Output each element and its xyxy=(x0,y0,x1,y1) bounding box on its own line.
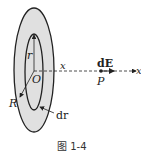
disk-field-diagram: r O R dr x dE P x 图 1-4 xyxy=(0,0,141,151)
label-x-mid: x xyxy=(60,61,66,71)
label-R: R xyxy=(9,98,17,109)
label-r: r xyxy=(27,50,32,61)
label-O: O xyxy=(32,74,41,85)
label-P: P xyxy=(97,76,104,87)
label-dE: dE xyxy=(97,58,113,69)
label-x-axis: x xyxy=(136,66,141,76)
label-dr: dr xyxy=(56,110,68,121)
figure-caption: 图 1-4 xyxy=(57,142,87,151)
diagram-graphics xyxy=(0,0,141,151)
